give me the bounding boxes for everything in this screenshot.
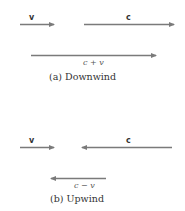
panel-b-arrows xyxy=(20,148,172,179)
label-resultant-upwind: c − v xyxy=(74,181,95,191)
caption-downwind: (a) Downwind xyxy=(49,72,116,82)
label-resultant-downwind: c + v xyxy=(83,58,104,68)
arrows-layer xyxy=(0,0,185,211)
velocity-addition-diagram: v c c + v (a) Downwind v c c − v (b) Upw… xyxy=(0,0,185,211)
panel-a-arrows xyxy=(20,25,174,56)
caption-upwind: (b) Upwind xyxy=(50,194,104,204)
label-v-downwind: v xyxy=(29,13,34,23)
label-c-downwind: c xyxy=(126,13,131,23)
label-v-upwind: v xyxy=(29,136,34,146)
label-c-upwind: c xyxy=(126,136,131,146)
